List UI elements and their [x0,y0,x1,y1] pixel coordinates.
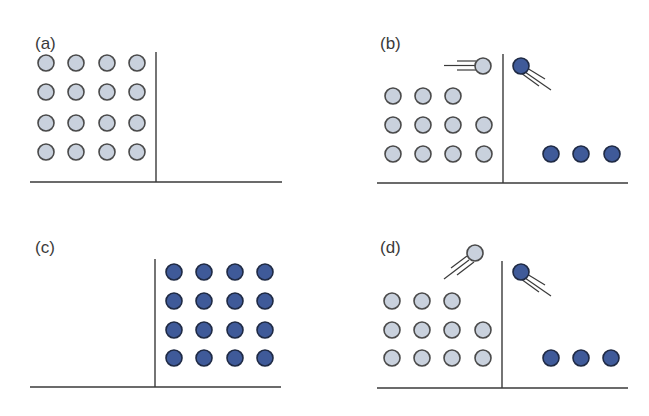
panel-a: (a) [30,34,282,182]
panel-b-dark-particles [543,146,620,162]
panel-b-moving-dark-particle [513,58,551,90]
panel-c-dark-particles [166,264,273,366]
panel-b: (b) [377,34,628,183]
panel-c-label: (c) [35,238,55,257]
panel-d-label: (d) [380,238,401,257]
panel-d-dark-particles [543,350,619,366]
panel-b-moving-light-particle [444,58,491,74]
panel-b-light-particles [385,88,492,162]
panel-a-label: (a) [35,34,56,53]
figure-canvas: (a) (b) [0,0,649,416]
panel-d-light-particles [384,293,491,366]
panel-c: (c) [30,238,281,387]
panel-d: (d) [377,238,628,388]
panel-b-label: (b) [380,34,401,53]
panel-d-moving-light-particle [444,245,483,279]
panel-a-light-particles [38,55,145,160]
panel-d-moving-dark-particle [513,264,551,296]
